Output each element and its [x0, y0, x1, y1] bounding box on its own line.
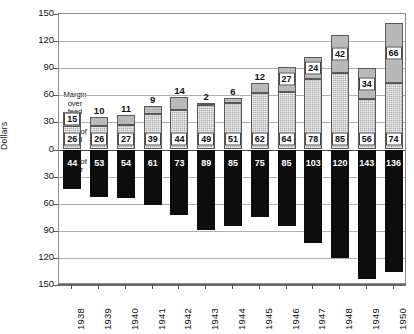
- value-label-cost-of-feed: 74: [386, 132, 402, 145]
- y-tick-mark: [53, 258, 58, 259]
- y-tick-label: 120: [20, 252, 54, 262]
- y-axis-tick-labels: 1501209060300306090120150: [16, 0, 54, 334]
- x-tick-label-1948: 1948: [344, 308, 354, 330]
- y-tick-label: 60: [20, 89, 54, 99]
- x-tick-label-1946: 1946: [291, 308, 301, 330]
- value-label-cost-of-feed: 64: [279, 132, 295, 145]
- gridline: [59, 41, 405, 42]
- y-tick-label: 0: [20, 144, 54, 154]
- y-tick-label: 90: [20, 225, 54, 235]
- value-label-cost-of-steer: 53: [94, 158, 104, 167]
- value-label-cost-of-steer: 136: [386, 158, 401, 167]
- y-tick-label: 150: [20, 8, 54, 18]
- y-tick-mark: [53, 14, 58, 15]
- value-label-cost-of-steer: 120: [333, 158, 348, 167]
- y-tick-label: 30: [20, 116, 54, 126]
- value-label-cost-of-feed: 44: [171, 132, 187, 145]
- bar-segment-margin-over-feed: [90, 117, 108, 126]
- y-tick-label: 120: [20, 35, 54, 45]
- stacked-bar-chart: Dollars 1501209060300306090120150 Margin…: [0, 0, 414, 334]
- gridline: [59, 258, 405, 259]
- y-tick-label: 60: [20, 198, 54, 208]
- value-label-margin-over-feed: 11: [121, 104, 131, 114]
- bar-segment-cost-of-steer: [385, 150, 403, 273]
- value-label-margin-over-feed: 24: [305, 62, 321, 75]
- x-tick-mark: [259, 284, 260, 289]
- bar-segment-margin-over-feed: [224, 98, 242, 103]
- value-label-margin-over-feed: 42: [332, 47, 348, 60]
- y-tick-mark: [53, 41, 58, 42]
- y-axis-title: Dollars: [0, 121, 9, 150]
- x-tick-mark: [178, 284, 179, 289]
- y-tick-label: 150: [20, 279, 54, 289]
- bar-segment-margin-over-feed: [144, 106, 162, 114]
- x-tick-label-1950: 1950: [398, 308, 408, 330]
- bar-segment-margin-over-feed: [197, 103, 215, 105]
- bar-segment-cost-of-steer: [63, 150, 81, 190]
- value-label-cost-of-feed: 51: [225, 132, 241, 145]
- value-label-cost-of-steer: 54: [121, 158, 131, 167]
- x-tick-mark: [366, 284, 367, 289]
- x-tick-label-1945: 1945: [264, 308, 274, 330]
- x-tick-label-1949: 1949: [371, 308, 381, 330]
- x-tick-label-1943: 1943: [210, 308, 220, 330]
- value-label-cost-of-steer: 85: [228, 158, 238, 167]
- x-tick-label-1940: 1940: [130, 308, 140, 330]
- x-tick-mark: [152, 284, 153, 289]
- value-label-cost-of-feed: 49: [198, 132, 214, 145]
- y-tick-mark: [53, 231, 58, 232]
- plot-area: Margin over feed Cost of feed Cost of st…: [58, 13, 406, 284]
- value-label-cost-of-feed: 78: [305, 132, 321, 145]
- x-tick-label-1938: 1938: [76, 308, 86, 330]
- y-tick-mark: [53, 177, 58, 178]
- x-tick-mark: [286, 284, 287, 289]
- value-label-cost-of-feed: 27: [118, 132, 134, 145]
- value-label-cost-of-steer: 44: [67, 158, 77, 167]
- gridline: [59, 68, 405, 69]
- value-label-margin-over-feed: 14: [174, 86, 185, 96]
- x-tick-mark: [98, 284, 99, 289]
- x-tick-mark: [125, 284, 126, 289]
- value-label-cost-of-feed: 26: [91, 132, 107, 145]
- value-label-cost-of-feed: 39: [145, 132, 161, 145]
- x-tick-label-1939: 1939: [103, 308, 113, 330]
- value-label-margin-over-feed: 2: [204, 92, 209, 102]
- y-tick-label: 30: [20, 171, 54, 181]
- value-label-cost-of-feed: 56: [359, 132, 375, 145]
- gridline: [59, 231, 405, 232]
- y-tick-mark: [53, 95, 58, 96]
- x-tick-mark: [393, 284, 394, 289]
- y-tick-mark: [53, 122, 58, 123]
- value-label-margin-over-feed: 66: [386, 46, 402, 59]
- x-tick-label-1947: 1947: [317, 308, 327, 330]
- value-label-cost-of-steer: 89: [201, 158, 211, 167]
- x-tick-mark: [312, 284, 313, 289]
- y-tick-label: 90: [20, 62, 54, 72]
- x-tick-label-1941: 1941: [157, 308, 167, 330]
- value-label-margin-over-feed: 6: [230, 87, 235, 97]
- y-tick-mark: [53, 150, 58, 151]
- value-label-cost-of-feed: 62: [252, 132, 268, 145]
- x-tick-mark: [339, 284, 340, 289]
- value-label-margin-over-feed: 10: [94, 106, 105, 116]
- x-tick-label-1944: 1944: [237, 308, 247, 330]
- value-label-cost-of-feed: 85: [332, 132, 348, 145]
- value-label-cost-of-feed: 26: [64, 132, 80, 145]
- y-tick-mark: [53, 204, 58, 205]
- bar-segment-margin-over-feed: [170, 97, 188, 110]
- value-label-margin-over-feed: 34: [359, 77, 375, 90]
- bar-segment-margin-over-feed: [117, 115, 135, 125]
- x-tick-label-1942: 1942: [183, 308, 193, 330]
- value-label-margin-over-feed: 12: [254, 72, 265, 82]
- x-tick-mark: [205, 284, 206, 289]
- x-tick-mark: [232, 284, 233, 289]
- y-tick-mark: [53, 68, 58, 69]
- value-label-cost-of-steer: 61: [148, 158, 158, 167]
- value-label-cost-of-steer: 75: [255, 158, 265, 167]
- x-tick-mark: [71, 284, 72, 289]
- value-label-margin-over-feed: 27: [279, 73, 295, 86]
- value-label-cost-of-steer: 73: [174, 158, 184, 167]
- value-label-margin-over-feed: 15: [64, 113, 80, 126]
- value-label-cost-of-steer: 103: [306, 158, 321, 167]
- value-label-cost-of-steer: 85: [282, 158, 292, 167]
